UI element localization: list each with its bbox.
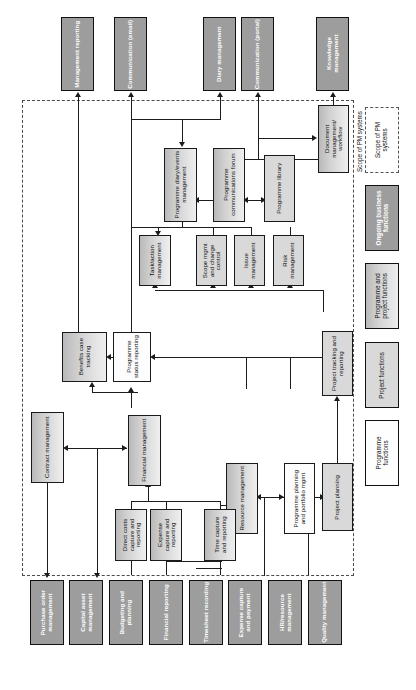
arrowhead-up [75,92,81,97]
node-expense-capture-and-reporting[interactable]: Expensecapture andreporting [150,509,182,561]
arrowhead-down [179,142,185,147]
node-label: Scope mgmtand changecontrol [202,243,222,278]
node-expense-capture-and-payment[interactable]: Expense captureand payment [228,580,262,645]
node-label: Issuemanagement [243,242,256,278]
node-document-management-workflow[interactable]: Documentmanagement/workflow [318,105,349,173]
connector [258,138,314,139]
node-task-action-management[interactable]: Task/actionmanagement [139,235,171,286]
connector [220,97,221,120]
node-label: Budgeting andplanning [119,591,132,634]
connector [158,227,159,233]
connector [264,575,265,576]
node-label: Financial management [141,419,148,482]
node-label: Communication (portal) [254,19,261,89]
connector [47,483,48,575]
node-quality-management[interactable]: Quality management [308,580,342,645]
node-communication-portal[interactable]: Communication (portal) [241,17,274,91]
connector [148,487,149,501]
node-label: Project planning [334,475,341,520]
legend-label: Programme andproject functions [375,273,389,319]
node-label: Programme planningand portfolio mgmt [293,470,306,528]
node-label: HR/resourcemanagement [278,593,291,631]
node-label: Expensecapture andreporting [156,519,176,552]
node-knowledge-management[interactable]: Knowledgemanagement [316,17,349,91]
node-label: Financial reporting [163,584,170,640]
node-label: Task/actionmanagement [148,242,161,278]
node-project-planning[interactable]: Project planning [322,463,353,531]
node-label: Quality management [322,582,329,643]
node-issue-management[interactable]: Issuemanagement [234,235,265,286]
connector [131,501,221,502]
node-label: Knowledgemanagement [326,35,339,73]
connector [337,401,338,463]
node-time-capture-and-reporting[interactable]: Time captureand reporting [204,509,236,561]
legend-label: Scope of PMsystems [375,122,389,158]
arrowhead-up [128,92,134,97]
connector [166,561,167,575]
node-label: Benefits casetracking [78,338,91,375]
node-programme-planning-and-portfolio-mgmt[interactable]: Programme planningand portfolio mgmt [284,463,315,534]
node-label: Programme diary/eventsmanagement [174,151,187,219]
connector [131,392,132,408]
node-label: Management reporting [74,21,81,88]
connector [131,501,132,509]
connector [131,227,251,228]
node-label: Expense captureand payment [238,588,251,638]
diagram-canvas: Management reporting Communication (emai… [0,0,416,690]
node-label: Contract management [44,417,51,478]
node-direct-costs-capture-and-reporting[interactable]: Direct costscapture andreporting [115,509,147,561]
node-programme-diary-events-management[interactable]: Programme diary/eventsmanagement [164,148,197,222]
node-purchase-order-management[interactable]: Purchase ordermanagement [30,580,64,645]
node-project-tracking-and-reporting[interactable]: Project tracking andreporting [322,331,353,396]
connector [131,561,132,575]
node-label: Capital assetmanagement [79,593,92,631]
node-programme-library[interactable]: Programme library [264,155,295,222]
node-management-reporting[interactable]: Management reporting [61,17,94,91]
node-label: Documentmanagement/workflow [324,120,344,158]
connector [131,119,221,120]
node-label: Diary management [216,26,223,82]
node-label: Programme library [276,163,283,214]
arrowhead-down [44,573,50,578]
connector [166,501,167,509]
node-diary-management[interactable]: Diary management [203,17,236,91]
node-capital-asset-management[interactable]: Capital assetmanagement [69,580,103,645]
connector [323,290,324,312]
node-financial-reporting[interactable]: Financial reporting [149,580,183,645]
node-label: Time captureand reporting [213,517,226,554]
connector [264,497,265,575]
node-label: Programmestatus reporting [125,336,138,379]
scope-frame-caption: Scope of PM systems [352,113,366,169]
legend-item-ongoing-business-functions: Ongoing businessfunctions [365,185,399,251]
connector [92,392,138,393]
connector [333,97,334,105]
node-benefits-case-tracking[interactable]: Benefits casetracking [62,332,107,382]
arrowhead-up [89,382,95,387]
arrowhead-up [334,396,340,401]
node-budgeting-and-planning[interactable]: Budgeting andplanning [109,580,143,645]
arrowhead-up [217,92,223,97]
legend-label: Ongoing businessfunctions [375,191,389,246]
node-label: Project tracking andreporting [331,336,344,391]
connector [246,357,247,389]
arrowhead-down [94,573,100,578]
connector [97,448,98,575]
node-financial-management[interactable]: Financial management [128,415,161,486]
node-contract-management[interactable]: Contract management [31,412,64,483]
node-label: Communication (email) [127,20,134,89]
node-hr-resource-management[interactable]: HR/resourcemanagement [268,580,302,645]
node-scope-mgmt-and-change-control[interactable]: Scope mgmtand changecontrol [196,235,227,286]
arrowhead-right [312,135,317,141]
legend-label: Programmefunctions [375,437,389,470]
arrowhead-up [330,92,336,97]
node-programme-communications-forum[interactable]: Programmecommunications forum [213,148,245,222]
node-programme-status-reporting[interactable]: Programmestatus reporting [113,332,151,382]
connector [258,97,259,159]
connector [196,568,222,569]
node-risk-management[interactable]: Riskmanagement [273,235,304,286]
connector [290,227,291,235]
node-label: Resource management [239,466,246,531]
connector [290,357,291,389]
node-communication-email[interactable]: Communication (email) [114,17,147,91]
node-timesheet-recording[interactable]: Timesheet recording [189,580,223,645]
